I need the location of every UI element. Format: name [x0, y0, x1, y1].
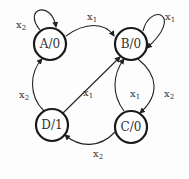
edge-d-to-b — [62, 57, 120, 114]
edge-b-to-c — [138, 59, 154, 113]
state-a-label: A/0 — [39, 37, 60, 51]
edge-label-b-self: x1 — [165, 11, 175, 24]
state-a: A/0 — [34, 28, 66, 60]
edge-a-to-b — [66, 26, 114, 37]
edge-label-b-to-c: x2 — [164, 88, 174, 101]
state-d: D/1 — [36, 109, 68, 141]
edge-c-to-d — [65, 132, 115, 144]
state-diagram: x2 x1 x1 x2 x1 x1 x2 x2 A/0 B/0 C/0 D/1 — [0, 0, 189, 179]
edge-c-to-b — [115, 59, 124, 111]
edge-label-d-to-b: x1 — [83, 87, 93, 100]
edge-label-c-to-b: x1 — [130, 88, 140, 101]
state-c-label: C/0 — [121, 120, 142, 134]
edge-a-self-loop — [34, 10, 56, 30]
edge-label-a-self: x2 — [16, 19, 26, 32]
state-d-label: D/1 — [41, 118, 62, 132]
state-c: C/0 — [115, 111, 147, 143]
state-b: B/0 — [115, 28, 147, 60]
edge-d-to-a — [33, 59, 45, 111]
edge-label-c-to-d: x2 — [93, 148, 103, 161]
edge-label-d-to-a: x2 — [19, 89, 29, 102]
edge-label-a-to-b: x1 — [87, 11, 97, 24]
state-b-label: B/0 — [121, 37, 142, 51]
diagram-svg: x2 x1 x1 x2 x1 x1 x2 x2 A/0 B/0 C/0 D/1 — [0, 0, 189, 179]
